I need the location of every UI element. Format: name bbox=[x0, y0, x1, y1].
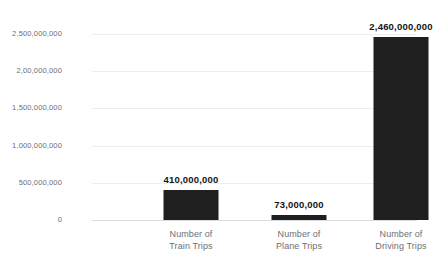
x-axis-category-label: Number ofDriving Trips bbox=[375, 228, 426, 252]
category-label-line-1: Number of bbox=[375, 228, 426, 240]
bar[interactable]: 2,460,000,000 bbox=[374, 37, 429, 220]
x-axis-category-label: Number ofPlane Trips bbox=[276, 228, 322, 252]
bar-value-label: 73,000,000 bbox=[274, 200, 324, 210]
bar[interactable]: 410,000,000 bbox=[164, 190, 219, 221]
bar-chart: 0500,000,0001,000,000,0001,500,000,0002,… bbox=[0, 0, 440, 268]
category-label-line-1: Number of bbox=[276, 228, 322, 240]
bar-series: 410,000,000Number ofTrain Trips73,000,00… bbox=[92, 0, 417, 268]
x-axis-category-label: Number ofTrain Trips bbox=[169, 228, 212, 252]
bar-value-label: 410,000,000 bbox=[163, 175, 218, 185]
y-axis-tick-label: 500,000,000 bbox=[19, 179, 62, 187]
y-axis-tick-label: 1,500,000,000 bbox=[12, 104, 62, 112]
bar[interactable]: 73,000,000 bbox=[272, 215, 327, 220]
category-label-line-2: Train Trips bbox=[169, 240, 212, 252]
category-label-line-1: Number of bbox=[169, 228, 212, 240]
y-axis-tick-label: 1,000,000,000 bbox=[12, 142, 62, 150]
y-axis-tick-label: 0 bbox=[58, 216, 62, 224]
category-label-line-2: Plane Trips bbox=[276, 240, 322, 252]
category-label-line-2: Driving Trips bbox=[375, 240, 426, 252]
bar-value-label: 2,460,000,000 bbox=[369, 22, 432, 32]
y-axis-tick-label: 2,00,000,000 bbox=[16, 67, 62, 75]
y-axis-tick-label: 2,500,000,000 bbox=[12, 30, 62, 38]
